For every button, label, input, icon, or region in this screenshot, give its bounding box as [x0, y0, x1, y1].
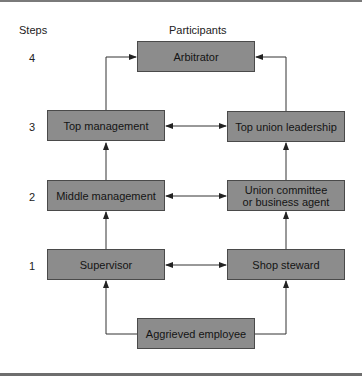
node-label: Top management [64, 120, 149, 132]
bottom-rule [0, 373, 362, 376]
node-arbitrator: Arbitrator [137, 41, 255, 72]
node-label-line-1: Union committee [245, 184, 328, 196]
node-union-committee: Union committee or business agent [227, 180, 345, 211]
node-top-management: Top management [47, 110, 165, 141]
node-middle-management: Middle management [47, 180, 165, 211]
node-label: Middle management [56, 190, 156, 202]
node-aggrieved-employee: Aggrieved employee [137, 318, 255, 349]
node-label: Aggrieved employee [146, 328, 246, 340]
node-shop-steward: Shop steward [227, 249, 345, 280]
node-label: Arbitrator [173, 51, 218, 63]
node-supervisor: Supervisor [47, 249, 165, 280]
node-label: Top union leadership [235, 121, 337, 133]
node-label: Supervisor [80, 259, 133, 271]
node-top-union-leadership: Top union leadership [227, 111, 345, 142]
node-label-line-2: or business agent [243, 196, 330, 208]
node-label: Shop steward [252, 259, 319, 271]
